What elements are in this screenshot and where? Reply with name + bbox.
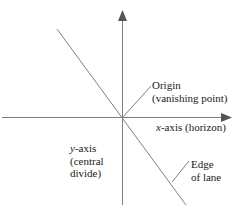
y-axis-label-line2: (central [70, 155, 104, 168]
perspective-axes-diagram: Origin (vanishing point) x-axis (horizon… [0, 0, 242, 215]
y-axis-label-text: -axis [75, 142, 96, 154]
edge-of-lane-label: Edge of lane [191, 158, 221, 183]
y-axis-label-line1: y-axis [70, 142, 104, 155]
y-axis-arrowhead [118, 10, 127, 21]
origin-label-line1: Origin [152, 79, 227, 92]
x-axis-label: x-axis (horizon) [156, 121, 226, 134]
origin-label-line2: (vanishing point) [152, 92, 227, 105]
origin-leader-line [123, 86, 152, 118]
origin-label: Origin (vanishing point) [152, 79, 227, 104]
x-axis-label-text: -axis (horizon) [161, 121, 226, 133]
y-axis-label-line3: divide) [70, 167, 104, 180]
edge-of-lane-leader-line [172, 161, 189, 182]
edge-of-lane-label-line1: Edge [191, 158, 221, 171]
y-axis-label: y-axis (central divide) [70, 142, 104, 180]
edge-of-lane-label-line2: of lane [191, 171, 221, 184]
